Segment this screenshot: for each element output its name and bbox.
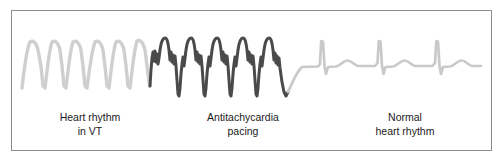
caption-normal-line-2: heart rhythm [332,124,478,138]
caption-vt-line-1: Heart rhythm [20,110,160,124]
caption-normal-line-1: Normal [332,110,478,124]
caption-antitachycardia-pacing: Antitachycardia pacing [168,110,318,138]
caption-vt-line-2: in VT [20,124,160,138]
caption-atp-line-1: Antitachycardia [168,110,318,124]
ecg-figure: Heart rhythm in VT Antitachycardia pacin… [0,0,504,163]
caption-heart-rhythm-in-vt: Heart rhythm in VT [20,110,160,138]
caption-atp-line-2: pacing [168,124,318,138]
caption-normal-heart-rhythm: Normal heart rhythm [332,110,478,138]
